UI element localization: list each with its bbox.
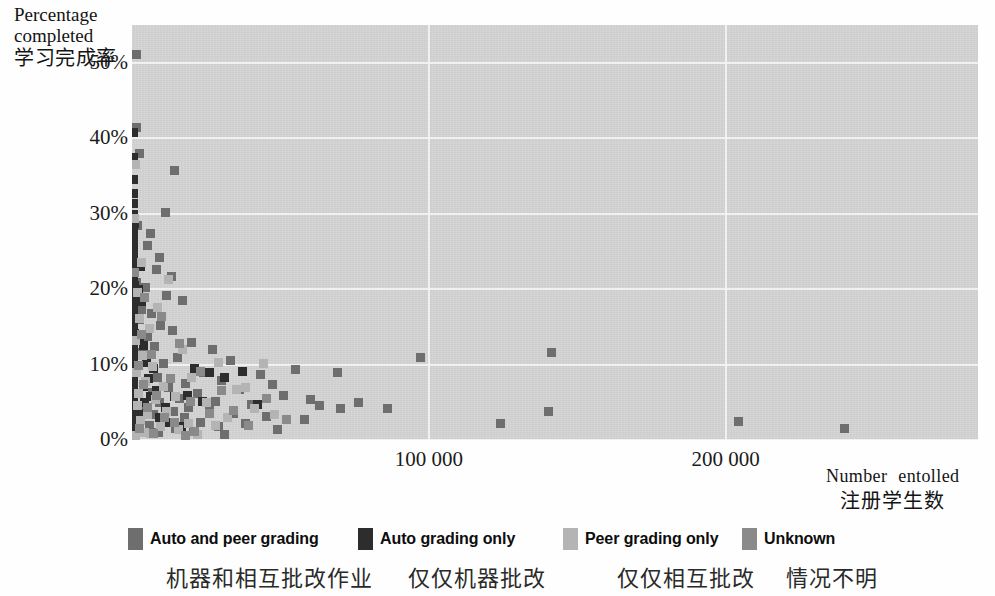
data-point <box>262 394 271 403</box>
data-point <box>139 380 148 389</box>
legend-label: Auto and peer grading <box>150 530 319 548</box>
data-point <box>214 358 223 367</box>
data-point <box>229 406 238 415</box>
data-point <box>333 368 342 377</box>
data-point <box>156 321 165 330</box>
data-point <box>162 291 171 300</box>
data-point <box>291 365 300 374</box>
data-point <box>354 398 363 407</box>
data-point <box>161 208 170 217</box>
data-point <box>187 338 196 347</box>
data-point <box>170 166 179 175</box>
data-point <box>196 418 205 427</box>
legend-swatch-icon <box>742 528 757 550</box>
data-point <box>734 417 743 426</box>
legend-label-chinese: 机器和相互批改作业 <box>166 560 373 592</box>
x-axis-tick-label: 100 000 <box>374 447 484 472</box>
data-point <box>171 392 180 401</box>
data-point <box>256 370 265 379</box>
data-point <box>211 421 220 430</box>
data-point <box>250 404 259 413</box>
legend-label-chinese: 仅仅相互批改 <box>617 560 755 592</box>
data-point <box>220 430 229 439</box>
data-point <box>168 326 177 335</box>
y-axis-title-line2: completed <box>14 25 117 46</box>
data-point <box>217 386 226 395</box>
data-point <box>416 353 425 362</box>
legend-item[interactable]: Auto and peer grading <box>128 526 319 552</box>
data-point <box>155 253 164 262</box>
data-point <box>133 401 142 410</box>
data-point <box>279 391 288 400</box>
data-point <box>147 350 156 359</box>
legend: Auto and peer gradingAuto grading onlyPe… <box>0 526 995 556</box>
data-point <box>205 368 214 377</box>
data-point <box>544 407 553 416</box>
data-point <box>547 348 556 357</box>
data-point <box>146 229 155 238</box>
x-axis-title-chinese: 注册学生数 <box>826 489 959 513</box>
data-point <box>300 415 309 424</box>
data-point <box>139 341 148 350</box>
data-point <box>190 427 199 436</box>
data-point <box>241 383 250 392</box>
data-point <box>132 160 140 169</box>
data-point <box>282 415 291 424</box>
data-point <box>143 403 152 412</box>
data-point <box>211 397 220 406</box>
data-point <box>220 373 229 382</box>
data-point <box>132 228 138 237</box>
legend-chinese: 机器和相互批改作业仅仅机器批改仅仅相互批改情况不明 <box>0 560 995 594</box>
legend-label-chinese: 仅仅机器批改 <box>408 560 546 592</box>
data-point <box>226 356 235 365</box>
data-point <box>157 312 166 321</box>
data-point <box>134 389 143 398</box>
data-point <box>205 409 214 418</box>
legend-item[interactable]: Auto grading only <box>358 526 515 552</box>
data-point <box>152 265 161 274</box>
data-point <box>149 429 158 438</box>
y-axis-tick-label: 30% <box>0 203 134 224</box>
data-point <box>187 373 196 382</box>
data-point <box>496 419 505 428</box>
gridline-horizontal <box>132 213 978 215</box>
gridline-vertical <box>725 25 727 440</box>
legend-label-chinese: 情况不明 <box>786 560 878 592</box>
data-point <box>153 303 162 312</box>
data-point <box>270 410 279 419</box>
data-point <box>196 367 205 376</box>
data-point <box>244 421 253 430</box>
y-axis-tick-label: 20% <box>0 278 134 299</box>
y-axis-title-line1: Percentage <box>14 4 117 25</box>
data-point <box>148 362 157 371</box>
data-point <box>135 424 144 433</box>
legend-swatch-icon <box>563 528 578 550</box>
data-point <box>181 431 190 440</box>
legend-swatch-icon <box>358 528 373 550</box>
data-point <box>152 391 161 400</box>
gridline-vertical <box>428 25 430 440</box>
data-point <box>232 385 241 394</box>
data-point <box>132 268 139 277</box>
scatter-chart-figure: Percentage completed 学习完成率 0%10%20%30%40… <box>0 0 995 596</box>
y-axis-tick-label: 10% <box>0 354 134 375</box>
data-point <box>137 258 146 267</box>
data-point <box>175 339 184 348</box>
plot-area <box>132 25 978 440</box>
legend-item[interactable]: Unknown <box>742 526 835 552</box>
data-point <box>164 275 173 284</box>
data-point <box>202 398 211 407</box>
legend-swatch-icon <box>128 528 143 550</box>
data-point <box>840 424 849 433</box>
x-axis-tick-label: 200 000 <box>671 447 781 472</box>
data-point <box>145 324 154 333</box>
legend-item[interactable]: Peer grading only <box>563 526 718 552</box>
data-point <box>259 359 268 368</box>
gridline-horizontal <box>132 288 978 290</box>
legend-label: Peer grading only <box>585 530 718 548</box>
legend-label: Unknown <box>764 530 835 548</box>
data-point <box>273 425 282 434</box>
data-point <box>135 314 144 323</box>
data-point <box>186 397 195 406</box>
data-point <box>336 404 345 413</box>
